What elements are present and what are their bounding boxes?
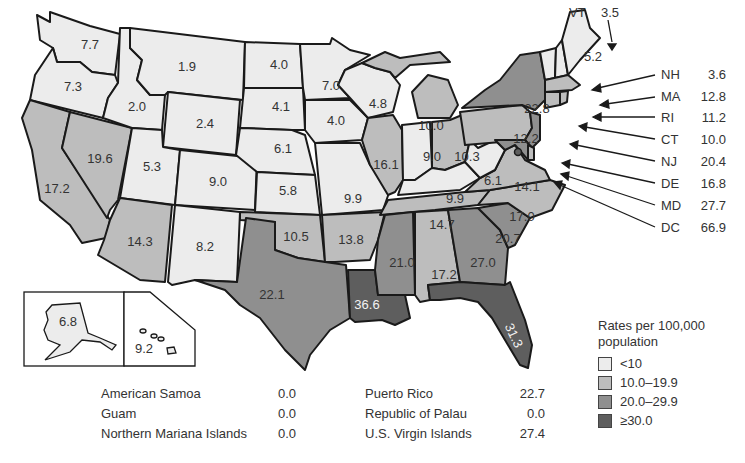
- svg-text:14.7: 14.7: [429, 217, 454, 232]
- svg-text:9.9: 9.9: [344, 191, 362, 206]
- svg-text:6.1: 6.1: [274, 141, 292, 156]
- svg-text:7.0: 7.0: [322, 78, 340, 93]
- legend: Rates per 100,000 population <10 10.0–19…: [598, 318, 738, 430]
- svg-text:19.6: 19.6: [87, 151, 112, 166]
- legend-swatch: [598, 395, 612, 409]
- territories-left: American Samoa 0.0 Guam 0.0 Northern Mar…: [101, 386, 311, 446]
- svg-text:10.0: 10.0: [418, 118, 443, 133]
- svg-text:22.1: 22.1: [259, 287, 284, 302]
- svg-text:27.0: 27.0: [470, 255, 495, 270]
- svg-text:5.2: 5.2: [584, 49, 602, 64]
- svg-text:7.7: 7.7: [81, 37, 99, 52]
- callout-dc: DC 66.9: [661, 220, 726, 236]
- svg-text:4.0: 4.0: [270, 57, 288, 72]
- svg-text:14.3: 14.3: [127, 234, 152, 249]
- svg-text:9.9: 9.9: [446, 191, 464, 206]
- callout-vt: VT 3.5: [569, 5, 619, 21]
- svg-text:6.1: 6.1: [484, 173, 502, 188]
- svg-text:17.2: 17.2: [431, 267, 456, 282]
- svg-text:14.1: 14.1: [514, 179, 539, 194]
- legend-row: 10.0–19.9: [598, 373, 738, 392]
- callout-ma: MA 12.8: [661, 89, 726, 105]
- svg-text:5.8: 5.8: [279, 183, 297, 198]
- svg-text:21.0: 21.0: [389, 255, 414, 270]
- legend-swatch: [598, 376, 612, 390]
- svg-text:20.7: 20.7: [495, 231, 520, 246]
- territory-row: Northern Mariana Islands 0.0: [101, 426, 311, 446]
- svg-text:9.0: 9.0: [209, 174, 227, 189]
- svg-text:22.8: 22.8: [524, 101, 549, 116]
- state-mi: [412, 75, 458, 118]
- callout-ri: RI 11.2: [661, 110, 726, 126]
- svg-text:2.0: 2.0: [128, 99, 146, 114]
- legend-row: 20.0–29.9: [598, 392, 738, 411]
- svg-text:4.0: 4.0: [327, 113, 345, 128]
- territory-row: Republic of Palau 0.0: [365, 406, 545, 426]
- svg-text:13.8: 13.8: [338, 232, 363, 247]
- svg-text:10.5: 10.5: [283, 229, 308, 244]
- svg-text:12.2: 12.2: [513, 131, 538, 146]
- svg-text:1.9: 1.9: [178, 59, 196, 74]
- callout-md: MD 27.7: [661, 198, 726, 214]
- svg-text:17.2: 17.2: [44, 181, 69, 196]
- svg-text:36.6: 36.6: [354, 297, 379, 312]
- svg-text:4.8: 4.8: [369, 96, 387, 111]
- legend-swatch: [598, 357, 612, 371]
- territory-row: American Samoa 0.0: [101, 386, 311, 406]
- legend-row: ≥30.0: [598, 411, 738, 430]
- territories-right: Puerto Rico 22.7 Republic of Palau 0.0 U…: [365, 386, 545, 446]
- territory-row: Puerto Rico 22.7: [365, 386, 545, 406]
- dc-marker: [515, 149, 522, 156]
- callout-de: DE 16.8: [661, 176, 726, 192]
- svg-text:10.3: 10.3: [454, 149, 479, 164]
- callout-ct: CT 10.0: [661, 132, 726, 148]
- callout-nj: NJ 20.4: [661, 154, 726, 170]
- legend-title: Rates per 100,000 population: [598, 318, 738, 350]
- svg-text:17.0: 17.0: [509, 209, 534, 224]
- state-ri: [560, 91, 568, 105]
- callout-nh: NH 3.6: [661, 67, 726, 83]
- legend-row: <10: [598, 354, 738, 373]
- territory-row: U.S. Virgin Islands 27.4: [365, 426, 545, 446]
- state-de: [528, 145, 534, 160]
- territory-row: Guam 0.0: [101, 406, 311, 426]
- svg-text:2.4: 2.4: [196, 116, 214, 131]
- svg-text:7.3: 7.3: [64, 79, 82, 94]
- svg-text:16.1: 16.1: [373, 157, 398, 172]
- svg-text:6.8: 6.8: [59, 314, 77, 329]
- svg-text:4.1: 4.1: [272, 99, 290, 114]
- legend-swatch: [598, 414, 612, 428]
- svg-text:9.0: 9.0: [423, 149, 441, 164]
- alaska-hawaii-inset: 6.8 9.2: [24, 292, 195, 366]
- svg-text:9.2: 9.2: [135, 341, 153, 356]
- svg-text:8.2: 8.2: [196, 239, 214, 254]
- svg-text:5.3: 5.3: [143, 159, 161, 174]
